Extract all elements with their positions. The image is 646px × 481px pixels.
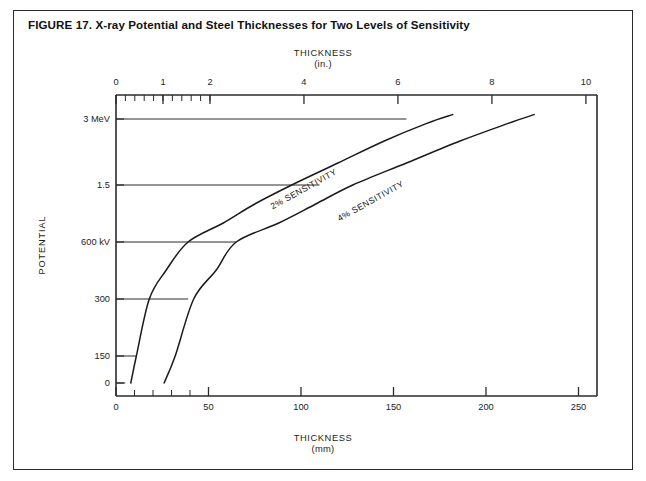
top-axis-tick-label: 6	[395, 77, 400, 87]
top-axis-tick-label: 2	[207, 77, 212, 87]
bottom-axis-tick-label: 100	[293, 402, 309, 412]
y-axis-ticks	[116, 119, 124, 383]
reference-lines	[116, 119, 406, 383]
top-axis-tick-label: 4	[301, 77, 306, 87]
bottom-axis-tick-label: 150	[386, 402, 402, 412]
bottom-axis-tick-label: 250	[571, 402, 587, 412]
bottom-axis-tick-label: 200	[478, 402, 494, 412]
y-axis-tick-label: 300	[40, 294, 110, 304]
top-axis-tick-label: 1	[160, 77, 165, 87]
y-axis-tick-label: 600 kV	[40, 237, 110, 247]
top-axis-tick-label: 0	[113, 77, 118, 87]
figure-container: FIGURE 17. X-ray Potential and Steel Thi…	[0, 0, 646, 481]
y-axis-tick-label: 1.5	[40, 180, 110, 190]
data-curves	[131, 115, 534, 383]
axis-frame	[116, 95, 597, 396]
top-axis-tick-label: 10	[581, 77, 591, 87]
y-axis-tick-label: 0	[40, 378, 110, 388]
y-axis-tick-label: 150	[40, 351, 110, 361]
bottom-axis-ticks	[116, 387, 579, 396]
bottom-axis-tick-label: 0	[113, 402, 118, 412]
top-axis-tick-label: 8	[489, 77, 494, 87]
bottom-axis-tick-label: 50	[203, 402, 213, 412]
y-axis-tick-label: 3 MeV	[40, 114, 110, 124]
curve-4-percent	[164, 115, 534, 383]
top-axis-ticks	[116, 95, 586, 104]
